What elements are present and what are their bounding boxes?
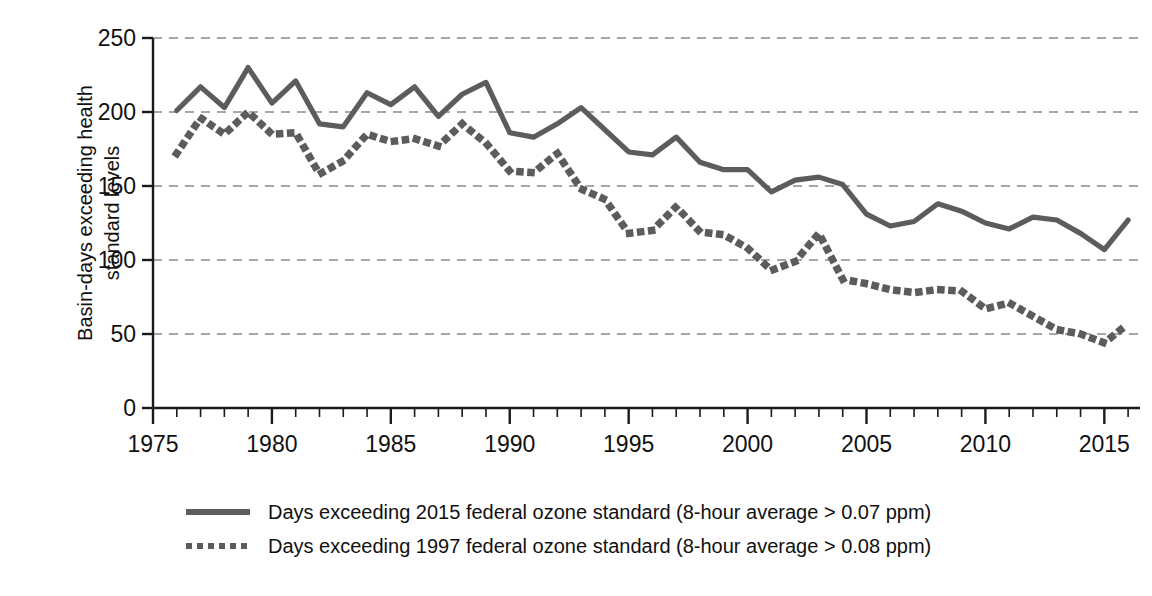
gridlines-group bbox=[153, 38, 1140, 334]
x-tick-label: 1980 bbox=[246, 431, 297, 457]
dotted-line-swatch bbox=[186, 530, 250, 562]
y-tick-label: 50 bbox=[110, 321, 136, 347]
solid-line-swatch bbox=[186, 496, 250, 528]
x-tick-label: 2015 bbox=[1079, 431, 1130, 457]
chart-legend: Days exceeding 2015 federal ozone standa… bbox=[186, 496, 1086, 564]
legend-item-0: Days exceeding 2015 federal ozone standa… bbox=[186, 496, 1086, 528]
ozone-exceedance-chart: Basin-days exceeding health standard lev… bbox=[0, 0, 1152, 596]
x-tick-label: 2010 bbox=[960, 431, 1011, 457]
legend-label-1: Days exceeding 1997 federal ozone standa… bbox=[268, 535, 931, 558]
series-line-1 bbox=[177, 112, 1128, 343]
legend-item-1: Days exceeding 1997 federal ozone standa… bbox=[186, 530, 1086, 562]
series-line-0 bbox=[177, 68, 1128, 250]
x-tick-label: 1975 bbox=[127, 431, 178, 457]
x-tick-label: 1990 bbox=[484, 431, 535, 457]
x-tick-group: 197519801985199019952000200520102015 bbox=[127, 408, 1129, 457]
y-tick-label: 100 bbox=[98, 247, 136, 273]
x-tick-label: 2000 bbox=[722, 431, 773, 457]
x-tick-label: 1985 bbox=[365, 431, 416, 457]
y-tick-label: 0 bbox=[123, 395, 136, 421]
x-tick-label: 2005 bbox=[841, 431, 892, 457]
data-series-group bbox=[177, 68, 1128, 343]
y-tick-label: 150 bbox=[98, 173, 136, 199]
legend-label-0: Days exceeding 2015 federal ozone standa… bbox=[268, 501, 931, 524]
y-tick-label: 200 bbox=[98, 99, 136, 125]
x-tick-label: 1995 bbox=[603, 431, 654, 457]
y-tick-group: 050100150200250 bbox=[98, 25, 153, 421]
y-tick-label: 250 bbox=[98, 25, 136, 51]
